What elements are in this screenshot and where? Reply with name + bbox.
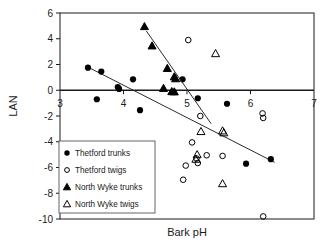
x-tick-label: 7 [311, 98, 317, 109]
y-tick-label: 4 [47, 33, 53, 44]
x-axis-title: Bark pH [167, 226, 207, 238]
point-open-triangle [197, 127, 205, 134]
point-filled-circle [94, 96, 100, 102]
y-tick-label: -4 [44, 136, 53, 147]
point-filled-circle [224, 101, 230, 107]
legend-item-label: North Wyke trunks [75, 183, 142, 192]
y-tick-label: -6 [44, 162, 53, 173]
legend-item-3[interactable]: North Wyke trunks [63, 183, 142, 192]
scatter-plot: 6420-2-4-6-8-1034567Bark pHLANThetford t… [0, 0, 327, 245]
point-filled-circle [195, 95, 201, 101]
y-tick-label: 2 [47, 59, 53, 70]
point-filled-circle [85, 65, 91, 71]
point-open-circle [198, 113, 204, 119]
point-open-circle [220, 153, 226, 159]
point-filled-circle [243, 161, 249, 167]
legend-item-1[interactable]: Thetford trunks [64, 149, 130, 158]
legend-item-label: North Wyke twigs [75, 200, 139, 209]
x-tick-label: 3 [57, 98, 63, 109]
point-filled-circle [137, 107, 143, 113]
point-filled-circle [64, 150, 69, 155]
series-3 [140, 23, 211, 124]
legend: Thetford trunksThetford twigsNorth Wyke … [59, 141, 155, 213]
x-tick-label: 6 [248, 98, 254, 109]
y-axis-title: LAN [7, 95, 19, 116]
point-open-circle [189, 140, 195, 146]
y-tick-label: -10 [39, 214, 54, 225]
point-filled-triangle [160, 84, 168, 91]
x-tick-label: 4 [121, 98, 127, 109]
point-open-circle [185, 37, 191, 43]
legend-item-label: Thetford trunks [75, 149, 130, 158]
point-open-circle [180, 177, 186, 183]
point-filled-circle [268, 156, 274, 162]
point-filled-circle [130, 76, 136, 82]
point-open-triangle [219, 180, 227, 187]
legend-item-4[interactable]: North Wyke twigs [63, 200, 138, 209]
point-filled-circle [116, 86, 122, 92]
y-tick-label: 6 [47, 8, 53, 19]
point-open-circle [260, 214, 266, 220]
point-open-circle [204, 152, 210, 158]
point-open-circle [183, 163, 189, 169]
point-filled-triangle [140, 23, 148, 30]
point-filled-circle [98, 68, 104, 74]
y-tick-label: -8 [44, 188, 53, 199]
chart-figure: 6420-2-4-6-8-1034567Bark pHLANThetford t… [0, 0, 327, 245]
trendline [146, 31, 211, 124]
x-tick-label: 5 [184, 98, 190, 109]
point-open-triangle [212, 50, 220, 57]
y-tick-label: 0 [47, 85, 53, 96]
y-tick-label: -2 [44, 111, 53, 122]
legend-item-label: Thetford twigs [75, 166, 126, 175]
